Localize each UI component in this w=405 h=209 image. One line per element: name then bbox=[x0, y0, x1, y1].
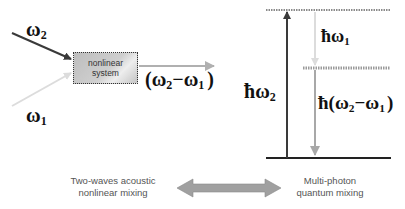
difference-energy-label: ħ(ω2−ω1) bbox=[318, 92, 393, 114]
signal-energy-label: ħω1 bbox=[321, 26, 350, 47]
left-caption: Two-waves acoustic nonlinear mixing bbox=[68, 175, 158, 199]
right-caption-line2: quantum mixing bbox=[290, 187, 370, 199]
double-arrow bbox=[177, 179, 281, 197]
input-omega2-label: ω2 bbox=[26, 18, 47, 43]
input-omega1-label: ω1 bbox=[26, 104, 47, 129]
box-label-line2: system bbox=[88, 68, 123, 78]
box-label-line1: nonlinear bbox=[88, 58, 123, 68]
left-caption-line1: Two-waves acoustic bbox=[68, 175, 158, 187]
nonlinear-system-box: nonlinear system bbox=[73, 52, 138, 84]
left-caption-line2: nonlinear mixing bbox=[68, 187, 158, 199]
right-caption-line1: Multi-photon bbox=[290, 175, 370, 187]
pump-energy-label: ħω2 bbox=[244, 80, 276, 105]
input-omega1-arrow bbox=[12, 73, 71, 106]
output-difference-label: (ω2−ω1) bbox=[145, 68, 214, 93]
right-caption: Multi-photon quantum mixing bbox=[290, 175, 370, 199]
